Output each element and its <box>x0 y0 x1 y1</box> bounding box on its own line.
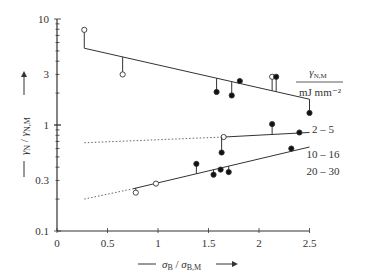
filled-data-point <box>229 93 234 98</box>
filled-data-point <box>218 167 223 172</box>
filled-data-point <box>194 161 199 166</box>
y-tick-label: 0.3 <box>35 174 49 186</box>
legend: γN,M mJ mm⁻² 2 – 5 10 – 16 20 – 30 <box>296 66 343 177</box>
filled-data-point <box>289 146 294 151</box>
x-tick-label: 1 <box>155 237 161 249</box>
arrow-up-icon <box>21 71 27 77</box>
y-tick-label: 3 <box>44 68 50 80</box>
y-tick-label: 10 <box>38 13 50 25</box>
filled-data-point <box>237 78 242 83</box>
filled-data-point <box>307 110 312 115</box>
x-axis-label: σB / σB,M <box>162 258 201 272</box>
filled-data-point <box>297 130 302 135</box>
legend-label-10-16: 10 – 16 <box>307 148 341 160</box>
open-data-point <box>133 190 138 195</box>
y-tick-label: 1 <box>44 119 50 131</box>
series-2 <box>84 121 309 155</box>
y-axis-title: γN / γN,M <box>18 71 32 177</box>
fit-line-dotted <box>84 137 223 143</box>
legend-label-20-30: 20 – 30 <box>307 165 341 177</box>
y-tick-label: 0.1 <box>35 225 49 237</box>
axes: 0.10.3131000.511.522.5 <box>35 13 317 249</box>
x-tick-label: 1.5 <box>202 237 216 249</box>
chart: 0.10.3131000.511.522.5 γN / γN,M σB / σB… <box>0 0 374 277</box>
series-1 <box>82 27 312 115</box>
legend-label-2-5: 2 – 5 <box>312 123 335 135</box>
filled-data-point <box>219 150 224 155</box>
y-axis-label: γN / γN,M <box>18 117 32 155</box>
filled-data-point <box>226 169 231 174</box>
filled-data-point <box>274 74 279 79</box>
open-data-point <box>153 181 158 186</box>
arrow-right-icon <box>232 261 238 267</box>
legend-title-bottom: mJ mm⁻² <box>299 86 342 98</box>
series-3 <box>84 146 309 199</box>
filled-data-point <box>214 89 219 94</box>
fit-line-dotted <box>84 189 132 199</box>
filled-data-point <box>270 121 275 126</box>
legend-title-top: γN,M <box>309 66 327 80</box>
open-data-point <box>82 27 87 32</box>
x-tick-label: 0.5 <box>101 237 115 249</box>
x-tick-label: 2.5 <box>303 237 317 249</box>
x-tick-label: 2 <box>256 237 262 249</box>
x-tick-label: 0 <box>54 237 60 249</box>
open-data-point <box>120 72 125 77</box>
plot-area <box>82 27 312 199</box>
filled-data-point <box>211 172 216 177</box>
x-axis-title: σB / σB,M <box>138 258 238 272</box>
